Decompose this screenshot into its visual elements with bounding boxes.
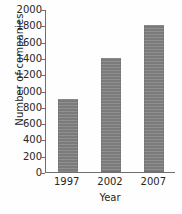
y-axis-tick-mark xyxy=(41,124,45,125)
y-axis-tick-label: 0 xyxy=(10,168,42,178)
y-axis-tick-mark xyxy=(41,173,45,174)
y-axis-tick-mark xyxy=(41,59,45,60)
x-axis-title: Year xyxy=(45,192,175,203)
y-axis-tick-labels: 2000180016001400120010008006004002000 xyxy=(10,10,42,173)
x-axis-tick-label: 2002 xyxy=(97,176,122,188)
y-axis-tick-label: 600 xyxy=(10,119,42,129)
y-axis-tick-label: 200 xyxy=(10,152,42,162)
bar xyxy=(144,25,164,172)
bar-chart: Number of companies 20001800160014001200… xyxy=(0,0,182,214)
bar xyxy=(101,58,121,172)
y-axis-tick-label: 400 xyxy=(10,135,42,145)
y-axis-tick-label: 2000 xyxy=(10,5,42,15)
x-axis-tick-label: 2007 xyxy=(141,176,166,188)
y-axis-tick-label: 800 xyxy=(10,103,42,113)
y-axis-tick-mark xyxy=(41,157,45,158)
y-axis-tick-mark xyxy=(41,92,45,93)
y-axis-tick-mark xyxy=(41,108,45,109)
y-axis-tick-label: 1800 xyxy=(10,21,42,31)
y-axis-tick-label: 1600 xyxy=(10,38,42,48)
y-axis-tick-label: 1200 xyxy=(10,70,42,80)
y-axis-tick-mark xyxy=(41,43,45,44)
x-axis-line xyxy=(45,172,175,173)
bar xyxy=(58,99,78,172)
y-axis-tick-mark xyxy=(41,75,45,76)
plot-area xyxy=(45,10,175,173)
y-axis-tick-mark xyxy=(41,140,45,141)
bar-series xyxy=(46,10,175,172)
x-axis-tick-labels: 199720022007 xyxy=(45,176,175,189)
y-axis-tick-label: 1000 xyxy=(10,87,42,97)
x-axis-tick-label: 1997 xyxy=(54,176,79,188)
y-axis-tick-label: 1400 xyxy=(10,54,42,64)
y-axis-tick-mark xyxy=(41,26,45,27)
y-axis-tick-mark xyxy=(41,10,45,11)
